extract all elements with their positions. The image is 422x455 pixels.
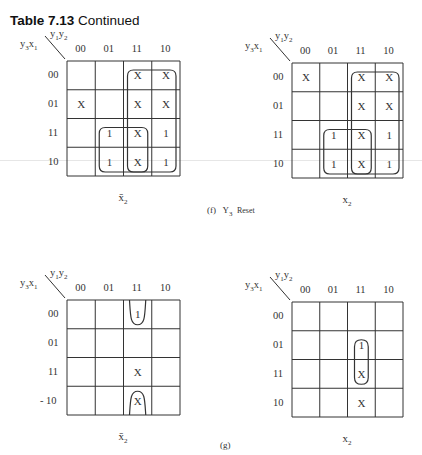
karnaugh-map-f-x2: y1y2y3x10001111000011110XXXXX1X11X1x2 bbox=[292, 63, 403, 178]
row-header-00: 00 bbox=[273, 72, 284, 83]
column-variable-label: y1y2 bbox=[275, 31, 293, 42]
column-header-10: 10 bbox=[160, 44, 171, 55]
cell-value: 1 bbox=[124, 309, 152, 320]
karnaugh-map-g-x2bar: y1y2y3x100011110000111- 101XXx̄2 bbox=[67, 300, 180, 415]
caption-f-suffix: Reset bbox=[237, 206, 255, 215]
column-header-10: 10 bbox=[383, 285, 394, 296]
cell-value: X bbox=[124, 367, 152, 378]
caption-f-prefix: (f) bbox=[207, 205, 216, 215]
column-header-01: 01 bbox=[103, 44, 114, 55]
row-header-00: 00 bbox=[48, 309, 59, 320]
cell-value: 1 bbox=[320, 130, 348, 141]
cell-value: X bbox=[375, 72, 403, 83]
cell-value: X bbox=[152, 70, 180, 81]
caption-f-var: Y bbox=[222, 205, 229, 215]
karnaugh-map-f-x2bar: y1y2y3x10001111000011110XXXXX1X11X1x̄2 bbox=[67, 61, 180, 176]
column-header-00: 00 bbox=[75, 44, 86, 55]
cell-value: 1 bbox=[152, 128, 180, 139]
caption-f-sub: 3 bbox=[229, 210, 233, 218]
table-number: Table 7.13 bbox=[10, 13, 74, 28]
map-label: x̄2 bbox=[119, 192, 128, 203]
column-header-00: 00 bbox=[75, 283, 86, 294]
row-header-10: 10 bbox=[273, 398, 284, 409]
cell-value: X bbox=[124, 157, 152, 168]
cell-value: X bbox=[152, 99, 180, 110]
cell-value: X bbox=[124, 99, 152, 110]
cell-value: X bbox=[348, 101, 376, 112]
column-header-01: 01 bbox=[103, 283, 114, 294]
row-header-00: 00 bbox=[48, 70, 59, 81]
cell-value: X bbox=[348, 369, 376, 380]
table-title-text: Continued bbox=[78, 13, 140, 28]
cell-value: X bbox=[124, 396, 152, 407]
cell-value: 1 bbox=[152, 157, 180, 168]
cell-value: X bbox=[348, 72, 376, 83]
cell-value: X bbox=[348, 398, 376, 409]
row-header-11: 11 bbox=[48, 367, 58, 378]
column-header-01: 01 bbox=[328, 46, 339, 57]
row-variable-label: y3x1 bbox=[245, 41, 263, 52]
column-header-10: 10 bbox=[160, 283, 171, 294]
cell-value: 1 bbox=[320, 159, 348, 170]
cell-value: X bbox=[348, 130, 376, 141]
row-variable-label: y3x1 bbox=[20, 39, 38, 50]
cell-value: X bbox=[124, 70, 152, 81]
map-label: x̄2 bbox=[119, 431, 128, 442]
row-header-11: 11 bbox=[273, 369, 283, 380]
column-variable-label: y1y2 bbox=[50, 268, 68, 279]
cell-value: X bbox=[67, 99, 95, 110]
column-header-00: 00 bbox=[300, 46, 311, 57]
column-header-11: 11 bbox=[132, 283, 142, 294]
column-header-10: 10 bbox=[383, 46, 394, 57]
column-header-11: 11 bbox=[355, 285, 365, 296]
cell-value: X bbox=[124, 128, 152, 139]
map-label: x2 bbox=[343, 433, 352, 444]
column-variable-label: y1y2 bbox=[50, 29, 68, 40]
row-header-01: 01 bbox=[48, 338, 59, 349]
cell-value: X bbox=[348, 159, 376, 170]
caption-g: (g) bbox=[220, 440, 231, 450]
map-label: x2 bbox=[343, 194, 352, 205]
row-header-11: 11 bbox=[48, 128, 58, 139]
row-variable-label: y3x1 bbox=[20, 278, 38, 289]
column-variable-label: y1y2 bbox=[275, 270, 293, 281]
column-header-11: 11 bbox=[132, 44, 142, 55]
row-header-01: 01 bbox=[273, 340, 284, 351]
column-header-01: 01 bbox=[328, 285, 339, 296]
row-header-01: 01 bbox=[273, 101, 284, 112]
caption-f: (f) Y3 Reset bbox=[207, 205, 255, 215]
cell-value: 1 bbox=[348, 340, 376, 351]
cell-value: 1 bbox=[95, 128, 123, 139]
row-header-01: 01 bbox=[48, 99, 59, 110]
row-header-10: 10 bbox=[48, 157, 59, 168]
row-header-10: - 10 bbox=[40, 396, 57, 407]
table-title: Table 7.13 Continued bbox=[10, 13, 140, 28]
row-header-00: 00 bbox=[273, 311, 284, 322]
cell-value: 1 bbox=[95, 157, 123, 168]
row-header-11: 11 bbox=[273, 130, 283, 141]
cell-value: 1 bbox=[375, 130, 403, 141]
column-header-11: 11 bbox=[355, 46, 365, 57]
cell-value: 1 bbox=[375, 159, 403, 170]
row-variable-label: y3x1 bbox=[245, 280, 263, 291]
row-header-10: 10 bbox=[273, 159, 284, 170]
cell-value: X bbox=[375, 101, 403, 112]
cell-value: X bbox=[292, 72, 320, 83]
karnaugh-map-g-x2: y1y2y3x100011110000111101XXx2 bbox=[292, 302, 403, 417]
column-header-00: 00 bbox=[300, 285, 311, 296]
